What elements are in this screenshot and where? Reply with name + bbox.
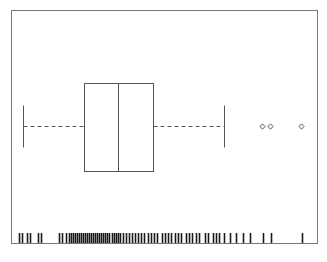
outlier-marker xyxy=(268,124,273,129)
rug-strip xyxy=(20,233,303,243)
outlier-marker xyxy=(299,124,304,129)
outlier-marker xyxy=(260,124,265,129)
plot-canvas xyxy=(0,0,327,262)
boxplot-figure xyxy=(0,0,327,262)
